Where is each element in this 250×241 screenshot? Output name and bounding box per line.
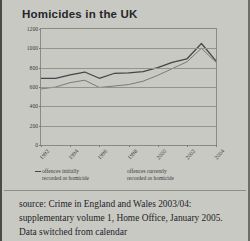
y-tick-label: 200 <box>30 123 38 129</box>
x-tick-label: 2000 <box>155 148 167 161</box>
y-tick-label: 800 <box>30 65 38 71</box>
y-gridline <box>41 48 216 49</box>
y-tick-mark <box>39 48 41 49</box>
figure-divider <box>4 190 246 191</box>
y-tick-mark <box>39 87 41 88</box>
chart-title: Homicides in the UK <box>22 8 138 20</box>
x-tick-mark <box>41 145 42 147</box>
source-caption: source: Crime in England and Wales 2003/… <box>19 197 241 240</box>
legend-item-initial: offences initially recorded as homicide <box>35 168 89 182</box>
legend-label-initial-line2: recorded as homicide <box>42 175 89 181</box>
x-tick-mark <box>99 145 100 147</box>
chart-figure: Homicides in the UK 02004006008001000120… <box>2 0 250 190</box>
plot-area: 0200400600800100012001992199419961998200… <box>40 28 217 146</box>
y-tick-label: 400 <box>30 103 38 109</box>
x-tick-mark <box>216 145 217 147</box>
legend-label-initial-line1: offences initially <box>42 168 79 174</box>
legend-label-current-line2: recorded as homicide <box>127 175 174 181</box>
y-tick-label: 600 <box>30 84 38 90</box>
y-gridline <box>41 87 216 88</box>
x-tick-mark <box>187 145 188 147</box>
x-tick-mark <box>129 145 130 147</box>
legend-label-current-line1: offences currently <box>127 168 167 174</box>
y-tick-label: 1000 <box>27 45 38 51</box>
y-gridline <box>41 68 216 69</box>
x-tick-label: 2004 <box>213 148 225 161</box>
y-tick-label: 0 <box>35 142 38 148</box>
x-tick-label: 1994 <box>67 148 79 161</box>
y-tick-mark <box>39 29 41 30</box>
x-tick-mark <box>158 145 159 147</box>
y-tick-mark <box>39 68 41 69</box>
y-tick-mark <box>39 126 41 127</box>
x-tick-label: 2002 <box>184 148 196 161</box>
legend-line-icon <box>35 171 41 172</box>
x-tick-label: 1992 <box>38 148 50 161</box>
x-tick-label: 1998 <box>126 148 138 161</box>
legend-item-current: offences currently recorded as homicide <box>127 168 174 182</box>
figure-page: Homicides in the UK 02004006008001000120… <box>0 0 250 241</box>
x-tick-label: 1996 <box>97 148 109 161</box>
y-tick-label: 1200 <box>27 26 38 32</box>
y-gridline <box>41 126 216 127</box>
chart-legend: offences initially recorded as homicide … <box>35 168 225 188</box>
y-gridline <box>41 106 216 107</box>
x-tick-mark <box>70 145 71 147</box>
y-tick-mark <box>39 106 41 107</box>
